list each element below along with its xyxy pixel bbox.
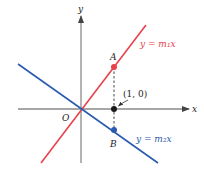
point-a (111, 64, 117, 70)
point-a-label: A (109, 52, 117, 62)
point-unit-label: (1, 0) (123, 89, 147, 99)
point-b (111, 127, 117, 133)
x-axis-label: x (192, 104, 197, 114)
slope-diagram: y x O A B (1, 0) y = m₁x y = m₂x (0, 0, 204, 171)
line-m1-label: y = m₁x (139, 39, 176, 49)
leader-arrow-icon (119, 100, 129, 106)
origin-label: O (62, 113, 70, 123)
line-m2 (18, 64, 158, 163)
point-unit (111, 106, 117, 112)
line-m2-label: y = m₂x (135, 134, 172, 144)
y-axis-label: y (77, 4, 84, 14)
point-b-label: B (109, 139, 117, 149)
